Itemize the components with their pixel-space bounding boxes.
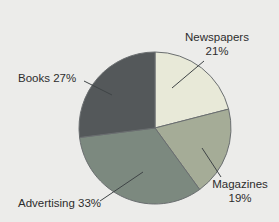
slice-label-newspapers-value: 21% (176, 44, 258, 58)
slice-label-magazines: Magazines 19% (204, 177, 276, 205)
pie-chart-figure: Newspapers 21% Books 27% Advertising 33%… (0, 0, 279, 222)
slice-label-magazines-value: 19% (204, 191, 276, 205)
slice-label-magazines-name: Magazines (204, 177, 276, 191)
slice-label-books-text: Books 27% (18, 71, 76, 85)
slice-label-newspapers-name: Newspapers (176, 30, 258, 44)
slice-label-advertising-text: Advertising 33% (18, 196, 101, 210)
slice-label-books: Books 27% (18, 71, 76, 85)
pie-slice-books (79, 52, 155, 138)
slice-label-newspapers: Newspapers 21% (176, 30, 258, 58)
slice-label-advertising: Advertising 33% (18, 196, 101, 210)
